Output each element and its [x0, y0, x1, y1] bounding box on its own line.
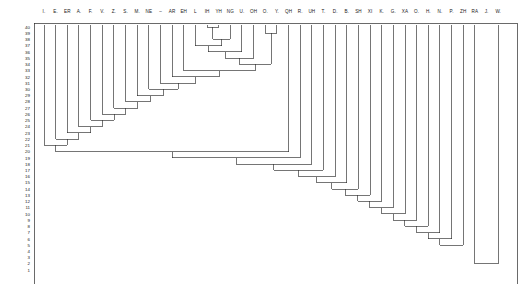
y-axis-tick-label: 22 — [25, 137, 30, 142]
leaf-label: K. — [379, 9, 384, 14]
y-axis-tick-label: 24 — [25, 124, 30, 129]
leaf-label: RA — [472, 9, 479, 14]
y-axis-tick-label: 26 — [25, 112, 30, 117]
leaf-label: ZH — [460, 9, 466, 14]
y-axis-tick-label: 11 — [25, 205, 30, 210]
leaf-label: – — [159, 9, 162, 14]
y-axis-tick-label: 34 — [25, 62, 30, 67]
dendrogram-plot: I.E.ERA.F.V.Z.S.M.NE–AREHLIHYHNGU.OHO.Y.… — [0, 0, 520, 288]
leaf-label: AR — [169, 9, 176, 14]
leaf-label: P. — [450, 9, 454, 14]
leaf-label: D. — [333, 9, 338, 14]
y-axis-tick-label: 27 — [25, 106, 30, 111]
leaf-label: J. — [485, 9, 489, 14]
y-axis-tick-label: 37 — [25, 43, 30, 48]
y-axis-tick-label: 39 — [25, 31, 30, 36]
y-axis-tick-label: 16 — [25, 174, 30, 179]
leaf-label: T. — [322, 9, 326, 14]
dendrogram-figure: I.E.ERA.F.V.Z.S.M.NE–AREHLIHYHNGU.OHO.Y.… — [0, 0, 520, 288]
leaf-label: YH — [215, 9, 222, 14]
leaf-label: V. — [100, 9, 104, 14]
leaf-label: UH — [308, 9, 315, 14]
leaf-label: E. — [53, 9, 58, 14]
y-axis-tick-label: 33 — [25, 68, 30, 73]
y-axis-tick-label: 14 — [25, 187, 30, 192]
y-axis-tick-label: 32 — [25, 75, 30, 80]
y-axis-tick-label: 35 — [25, 56, 30, 61]
leaf-label: U. — [240, 9, 245, 14]
leaf-label: XI — [368, 9, 373, 14]
leaf-label: Z. — [112, 9, 116, 14]
y-axis-tick-label: 23 — [25, 131, 30, 136]
y-axis-tick-label: 10 — [25, 212, 30, 217]
leaf-label: EH — [180, 9, 187, 14]
y-axis-tick-label: 19 — [25, 156, 30, 161]
leaf-label: G. — [391, 9, 396, 14]
y-axis-tick-label: 21 — [25, 143, 30, 148]
y-axis-tick-label: 15 — [25, 180, 30, 185]
leaf-label: I. — [43, 9, 46, 14]
y-axis-tick-label: 31 — [25, 81, 30, 86]
y-axis-tick-label: 18 — [25, 162, 30, 167]
y-axis-tick-label: 36 — [25, 50, 30, 55]
y-axis-tick-label: 29 — [25, 93, 30, 98]
leaf-label: IH — [205, 9, 210, 14]
y-axis-tick-label: 13 — [25, 193, 30, 198]
leaf-label: QH — [285, 9, 292, 14]
leaf-label: W. — [495, 9, 501, 14]
leaf-label: Y. — [275, 9, 279, 14]
leaf-label: OH — [250, 9, 257, 14]
y-axis-tick-label: 17 — [25, 168, 30, 173]
y-axis-tick-label: 25 — [25, 118, 30, 123]
leaf-label: L — [194, 9, 197, 14]
leaf-label: B. — [345, 9, 350, 14]
leaf-label: ER — [64, 9, 71, 14]
leaf-label: O. — [263, 9, 268, 14]
leaf-label: A. — [77, 9, 82, 14]
y-axis-tick-label: 30 — [25, 87, 30, 92]
leaf-label: O. — [414, 9, 419, 14]
leaf-label: R. — [298, 9, 303, 14]
y-axis-tick-label: 28 — [25, 99, 30, 104]
leaf-label: F. — [89, 9, 93, 14]
leaf-label: N. — [438, 9, 443, 14]
y-axis-tick-label: 12 — [25, 199, 30, 204]
leaf-label: NE — [146, 9, 153, 14]
y-axis-tick-label: 20 — [25, 149, 30, 154]
y-axis-tick-label: 40 — [25, 25, 30, 30]
leaf-label: NG — [227, 9, 234, 14]
leaf-label: SH — [355, 9, 362, 14]
leaf-label: M. — [135, 9, 140, 14]
y-axis-tick-label: 38 — [25, 37, 30, 42]
leaf-label: H. — [426, 9, 431, 14]
leaf-label: S. — [123, 9, 128, 14]
leaf-label: XA — [402, 9, 409, 14]
